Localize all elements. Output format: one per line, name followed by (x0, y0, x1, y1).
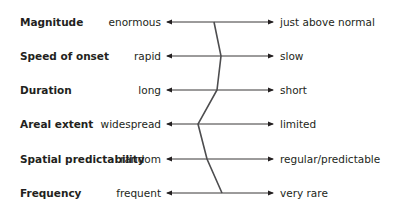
left-extreme-label: rapid (134, 49, 161, 63)
profile-diagram (0, 0, 397, 217)
row-label: Speed of onset (20, 49, 109, 63)
left-extreme-label: random (120, 152, 161, 166)
row-label: Areal extent (20, 117, 93, 131)
right-extreme-label: regular/predictable (280, 152, 380, 166)
row-label: Duration (20, 83, 72, 97)
left-extreme-label: frequent (116, 186, 161, 200)
right-extreme-label: slow (280, 49, 303, 63)
right-extreme-label: very rare (280, 186, 328, 200)
left-extreme-label: widespread (101, 117, 161, 131)
left-extreme-label: long (138, 83, 161, 97)
hazard-profile-line (198, 22, 222, 193)
right-extreme-label: just above normal (280, 15, 375, 29)
left-extreme-label: enormous (109, 15, 161, 29)
right-extreme-label: limited (280, 117, 316, 131)
right-extreme-label: short (280, 83, 307, 97)
row-label: Magnitude (20, 15, 83, 29)
row-label: Frequency (20, 186, 81, 200)
